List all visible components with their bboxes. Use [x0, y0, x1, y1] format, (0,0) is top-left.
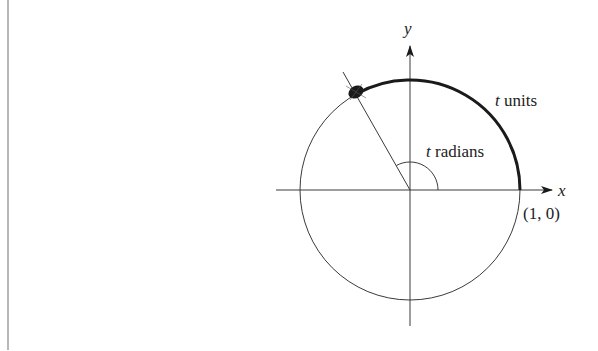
arc-length-label: t units: [495, 91, 537, 110]
x-axis-label: x: [557, 181, 566, 200]
angle-arc: [396, 162, 438, 190]
point-label: (1, 0): [523, 204, 560, 223]
angle-label: t radians: [426, 142, 484, 161]
unit-circle-diagram: y x (1, 0) t units t radians: [0, 0, 598, 351]
y-axis-label: y: [402, 19, 412, 38]
